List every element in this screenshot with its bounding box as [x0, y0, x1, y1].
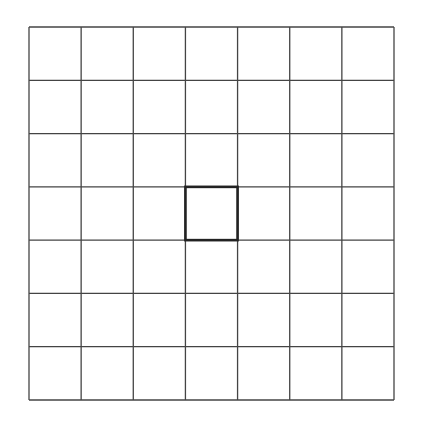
grid-diagram	[0, 0, 426, 425]
highlighted-cell	[185, 187, 237, 240]
grid-lines	[29, 27, 394, 400]
